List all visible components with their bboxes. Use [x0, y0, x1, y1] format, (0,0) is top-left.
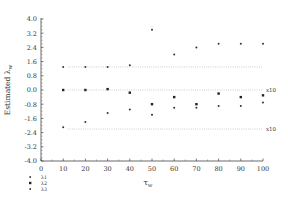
reference-line-label: x10 — [266, 126, 277, 132]
x-tick-label: 20 — [81, 165, 89, 173]
data-point — [262, 101, 264, 103]
data-point — [173, 96, 175, 98]
y-axis-label: Estimated λw — [3, 65, 13, 116]
data-point — [217, 92, 219, 94]
data-point — [173, 54, 175, 56]
data-point — [195, 46, 197, 48]
data-point — [62, 89, 64, 91]
data-point — [84, 121, 86, 123]
y-tick-label: -1.6 — [24, 115, 37, 123]
legend-marker — [29, 188, 31, 190]
data-point — [240, 105, 242, 107]
x-tick-label: 100 — [257, 165, 269, 173]
legend-label: λ1 — [41, 175, 47, 180]
data-point — [262, 94, 264, 96]
data-point — [262, 43, 264, 45]
x-tick-label: 70 — [192, 165, 200, 173]
y-tick-label: -4.0 — [24, 157, 37, 165]
reference-line-label: x10 — [266, 87, 277, 93]
y-tick-label: 0.8 — [27, 72, 37, 80]
data-point — [151, 103, 153, 105]
series-2 — [62, 88, 264, 105]
axes: 4.03.22.41.60.80.0-0.8-1.6-2.4-3.2-4.001… — [24, 15, 269, 173]
y-tick-label: 2.4 — [27, 44, 37, 52]
data-point — [107, 66, 109, 68]
x-tick-label: 80 — [214, 165, 222, 173]
x-tick-label: 60 — [170, 165, 178, 173]
data-point — [218, 105, 220, 107]
x-tick-label: 90 — [237, 165, 245, 173]
data-point — [195, 107, 197, 109]
data-point — [84, 89, 86, 91]
x-tick-label: 40 — [126, 165, 134, 173]
data-point — [129, 109, 131, 111]
data-point — [84, 66, 86, 68]
data-point — [151, 114, 153, 116]
data-point — [218, 43, 220, 45]
x-tick-label: 30 — [103, 165, 111, 173]
x-axis-label: τw — [143, 178, 152, 188]
y-tick-label: -3.2 — [24, 143, 37, 151]
legend-marker — [29, 182, 31, 184]
data-point — [240, 43, 242, 45]
series-1 — [62, 29, 264, 68]
series-3 — [62, 101, 264, 128]
legend-label: λ2 — [41, 181, 47, 186]
legend: λ1λ2λ3 — [29, 175, 47, 192]
data-point — [107, 112, 109, 114]
y-tick-label: -2.4 — [24, 129, 37, 137]
y-tick-label: 1.6 — [27, 58, 37, 66]
x-tick-label: 0 — [39, 165, 43, 173]
legend-label: λ3 — [41, 187, 47, 192]
data-point — [151, 29, 153, 31]
x-tick-label: 50 — [148, 165, 156, 173]
legend-marker — [29, 176, 31, 178]
y-tick-label: 0.0 — [27, 86, 37, 94]
chart-canvas: 4.03.22.41.60.80.0-0.8-1.6-2.4-3.2-4.001… — [0, 0, 288, 202]
scatter-chart: 4.03.22.41.60.80.0-0.8-1.6-2.4-3.2-4.001… — [0, 0, 288, 202]
data-points — [62, 29, 264, 129]
data-point — [195, 103, 197, 105]
data-point — [173, 107, 175, 109]
y-tick-label: 3.2 — [27, 30, 37, 38]
y-tick-label: 4.0 — [27, 15, 37, 23]
x-tick-label: 10 — [59, 165, 67, 173]
data-point — [106, 88, 108, 90]
y-tick-label: -0.8 — [24, 101, 37, 109]
data-point — [62, 126, 64, 128]
data-point — [240, 96, 242, 98]
reference-lines: x10x10 — [68, 67, 277, 132]
data-point — [129, 91, 131, 93]
data-point — [62, 66, 64, 68]
data-point — [129, 64, 131, 66]
